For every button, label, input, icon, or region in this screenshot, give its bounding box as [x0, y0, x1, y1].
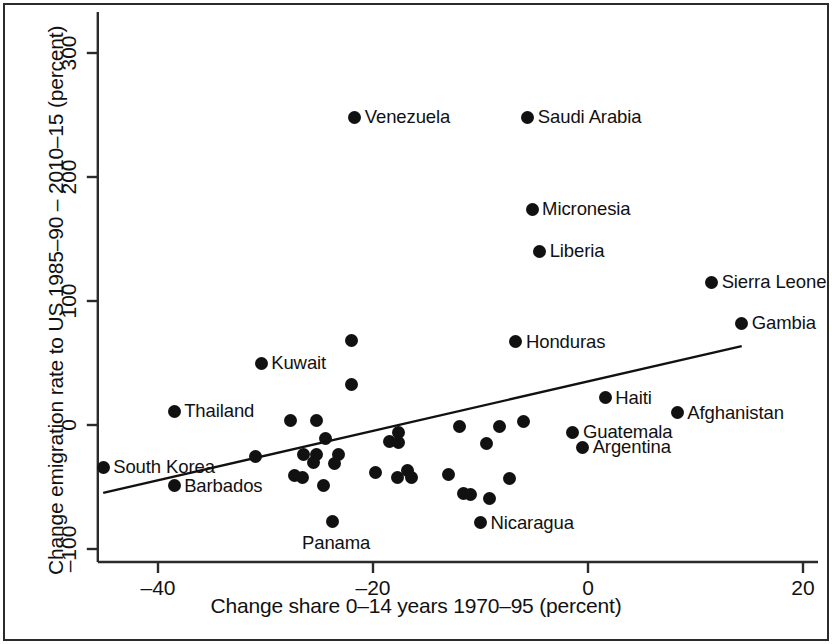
- point-label-barbados: Barbados: [184, 475, 262, 497]
- data-point: [517, 415, 530, 428]
- data-point-gambia: [735, 317, 748, 330]
- data-point-panama: [326, 515, 339, 528]
- data-point: [383, 435, 396, 448]
- data-point: [345, 378, 358, 391]
- point-label-honduras: Honduras: [526, 331, 605, 353]
- point-label-venezuela: Venezuela: [365, 106, 451, 128]
- point-label-kuwait: Kuwait: [271, 352, 326, 374]
- data-point-barbados: [168, 479, 181, 492]
- point-label-liberia: Liberia: [550, 240, 605, 262]
- point-label-argentina: Argentina: [593, 436, 671, 458]
- plot-canvas: [0, 0, 832, 644]
- point-label-sierra-leone: Sierra Leone: [722, 271, 827, 293]
- data-point: [453, 420, 466, 433]
- point-label-micronesia: Micronesia: [542, 198, 630, 220]
- x-axis-title: Change share 0–14 years 1970–95 (percent…: [211, 594, 622, 618]
- data-point: [442, 468, 455, 481]
- point-label-haiti: Haiti: [615, 387, 652, 409]
- x-tick-label--40: –40: [140, 576, 175, 600]
- data-point: [483, 492, 496, 505]
- data-point-micronesia: [526, 203, 539, 216]
- data-point: [310, 414, 323, 427]
- data-point: [296, 471, 309, 484]
- data-point-kuwait: [255, 357, 268, 370]
- point-label-thailand: Thailand: [184, 400, 254, 422]
- scatter-plot-figure: VenezuelaSaudi ArabiaMicronesiaLiberiaSi…: [0, 0, 832, 644]
- x-tick-label-20: 20: [791, 576, 814, 600]
- point-label-saudi-arabia: Saudi Arabia: [538, 106, 642, 128]
- data-point-sierra-leone: [705, 276, 718, 289]
- data-point: [328, 457, 341, 470]
- point-label-nicaragua: Nicaragua: [491, 512, 574, 534]
- data-point: [405, 471, 418, 484]
- data-point-afghanistan: [671, 406, 684, 419]
- y-axis-title: Change emigration rate to US 1985–90 – 2…: [44, 26, 68, 575]
- data-point: [307, 456, 320, 469]
- data-point: [249, 450, 262, 463]
- data-point-south-korea: [97, 461, 110, 474]
- data-point: [284, 414, 297, 427]
- data-point-haiti: [599, 391, 612, 404]
- data-point-thailand: [168, 405, 181, 418]
- data-point-liberia: [533, 245, 546, 258]
- data-point: [369, 466, 382, 479]
- point-label-afghanistan: Afghanistan: [687, 402, 784, 424]
- point-label-gambia: Gambia: [752, 312, 816, 334]
- point-label-panama: Panama: [302, 532, 370, 554]
- data-point: [503, 472, 516, 485]
- data-point: [493, 420, 506, 433]
